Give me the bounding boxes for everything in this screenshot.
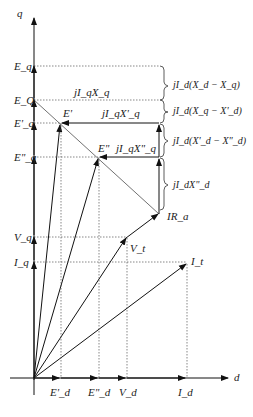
brace-label-1: jI_d(X_d − X_q) — [173, 80, 240, 90]
Epq-label: E'_q — [14, 118, 34, 129]
Vt-label: V_t — [130, 243, 145, 254]
Iq-label: I_q — [14, 257, 29, 268]
Id-label: I_d — [178, 387, 193, 398]
E-prime-label: E' — [63, 108, 72, 119]
brace-label-4: jI_dX"_d — [173, 180, 209, 190]
Vq-label: V_q — [14, 232, 32, 243]
Eppd-label: E"_d — [88, 387, 110, 398]
E-dblprime-label: E" — [98, 143, 109, 154]
Vd-label: V_d — [119, 387, 137, 398]
brace-label-2: jI_d(X_q − X'_d) — [173, 106, 242, 116]
phasor-diagram — [0, 0, 253, 417]
braces — [160, 66, 168, 210]
E-prime-phasor — [34, 125, 60, 378]
q-axis-label: q — [17, 8, 23, 19]
IRa-label: IR_a — [167, 211, 188, 222]
Eq-label: E_q — [14, 61, 32, 72]
brace-label-3: jI_d(X'_d − X"_d) — [173, 136, 246, 146]
E-dblprime-phasor — [34, 159, 98, 378]
jIqXq-label: jI_qX_q — [74, 87, 109, 98]
d-axis-label: d — [234, 372, 240, 383]
jIqXpq-label: jI_qX'_q — [102, 108, 140, 119]
Epd-label: E'_d — [50, 387, 70, 398]
It-label: I_t — [191, 256, 203, 267]
It-phasor — [34, 264, 186, 378]
Vt-phasor — [34, 238, 126, 378]
EQ-label: E_Q — [14, 95, 34, 106]
Eppq-label: E"_q — [14, 152, 36, 163]
jIqXppq-label: jI_qX"_q — [116, 143, 156, 154]
